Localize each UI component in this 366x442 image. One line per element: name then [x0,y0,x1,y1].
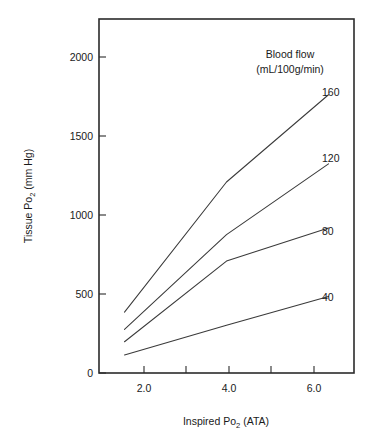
svg-text:Tissue Po2 (mm Hg): Tissue Po2 (mm Hg) [22,149,37,243]
series-label-120: 120 [322,152,340,164]
y-axis-tick-labels: 2000 1500 1000 500 0 [70,51,94,379]
legend-title: Blood flow (mL/100g/min) [256,48,324,75]
x-tick-label-6-0: 6.0 [307,382,322,394]
x-axis-ticks [144,366,314,373]
series-line-80 [125,228,329,342]
series-label-80: 80 [322,225,334,237]
series-line-40 [125,296,329,354]
series-label-40: 40 [322,291,334,303]
x-axis-title-post: (ATA) [240,415,269,427]
y-tick-label-500: 500 [75,288,93,300]
x-tick-label-2-0: 2.0 [137,382,152,394]
legend-title-line2: (mL/100g/min) [256,63,324,75]
x-axis-title-pre: Inspired Po [183,415,236,427]
x-tick-label-4-0: 4.0 [222,382,237,394]
chart-figure: 2000 1500 1000 500 0 2.0 4.0 6.0 Tissue … [0,0,366,442]
legend-title-line1: Blood flow [266,48,315,60]
x-axis-title: Inspired Po2 (ATA) [183,415,269,430]
y-axis-title-post: (mm Hg) [22,149,34,193]
x-axis-tick-labels: 2.0 4.0 6.0 [137,382,322,394]
y-axis-title: Tissue Po2 (mm Hg) [22,149,37,243]
y-tick-label-1000: 1000 [70,209,94,221]
series-line-160 [125,95,329,312]
series-labels: 160 120 80 40 [322,86,340,303]
y-tick-label-2000: 2000 [70,51,94,63]
series-group [125,95,329,355]
tissue-po2-line-chart: 2000 1500 1000 500 0 2.0 4.0 6.0 Tissue … [0,0,366,442]
y-tick-label-0: 0 [87,367,93,379]
series-label-160: 160 [322,86,340,98]
y-axis-title-pre: Tissue Po [22,197,34,243]
y-tick-label-1500: 1500 [70,130,94,142]
y-axis-ticks [99,57,106,373]
